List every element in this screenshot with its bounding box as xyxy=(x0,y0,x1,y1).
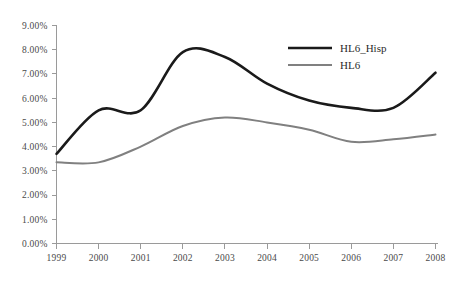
y-tick-label: 4.00% xyxy=(22,142,48,152)
y-tick-label: 7.00% xyxy=(22,69,48,79)
y-tick-label: 0.00% xyxy=(22,239,48,249)
x-tick-label: 1999 xyxy=(47,253,67,263)
line-chart: 0.00%1.00%2.00%3.00%4.00%5.00%6.00%7.00%… xyxy=(0,0,451,283)
y-tick-label: 3.00% xyxy=(22,166,48,176)
y-tick-label: 2.00% xyxy=(22,190,48,200)
series-lines xyxy=(57,48,436,163)
y-tick-label: 1.00% xyxy=(22,215,48,225)
y-tick-label: 5.00% xyxy=(22,118,48,128)
y-tick-label: 8.00% xyxy=(22,45,48,55)
x-tick-label: 2007 xyxy=(383,253,403,263)
chart-container: 0.00%1.00%2.00%3.00%4.00%5.00%6.00%7.00%… xyxy=(0,0,451,283)
x-axis: 1999200020012002200320042005200620072008 xyxy=(47,244,446,263)
chart-legend: HL6_HispHL6 xyxy=(288,42,387,71)
series-line-hl6 xyxy=(57,117,436,163)
x-tick-label: 2003 xyxy=(215,253,235,263)
x-tick-label: 2000 xyxy=(89,253,109,263)
legend-label-hl6: HL6 xyxy=(340,59,361,71)
x-tick-label: 2002 xyxy=(173,253,193,263)
x-tick-label: 2008 xyxy=(426,253,446,263)
series-line-hl6-hisp xyxy=(57,48,436,154)
y-tick-label: 9.00% xyxy=(22,21,48,31)
x-tick-label: 2004 xyxy=(257,253,277,263)
x-tick-label: 2005 xyxy=(299,253,319,263)
y-tick-label: 6.00% xyxy=(22,94,48,104)
legend-label-hl6-hisp: HL6_Hisp xyxy=(340,42,387,54)
y-axis: 0.00%1.00%2.00%3.00%4.00%5.00%6.00%7.00%… xyxy=(22,21,57,249)
x-tick-label: 2001 xyxy=(131,253,151,263)
x-tick-label: 2006 xyxy=(341,253,361,263)
